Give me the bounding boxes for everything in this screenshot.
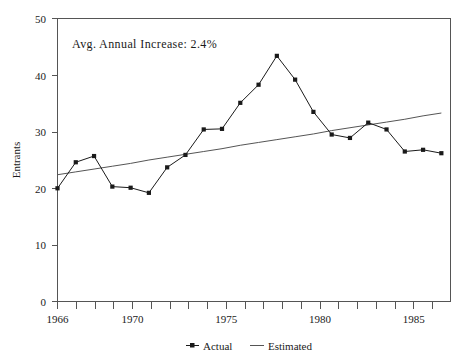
x-tick-label-1975: 1975: [215, 313, 238, 325]
data-point: [330, 132, 334, 136]
data-point: [92, 154, 96, 158]
legend-swatch-actual-marker: [190, 343, 195, 348]
data-point: [348, 136, 352, 140]
y-tick-label-20: 20: [35, 183, 47, 195]
y-axis-title: Entrants: [10, 142, 22, 179]
data-point: [403, 149, 407, 153]
legend-label-actual: Actual: [203, 340, 232, 352]
chart-background: [0, 0, 474, 363]
data-point: [220, 127, 224, 131]
line-chart: 0 10 20 30 40 50 Entrants: [0, 0, 474, 363]
y-tick-label-40: 40: [35, 70, 47, 82]
x-tick-label-1966: 1966: [47, 313, 70, 325]
data-point: [147, 191, 151, 195]
data-point: [110, 185, 114, 189]
x-tick-label-1985: 1985: [403, 313, 426, 325]
x-tick-label-1970: 1970: [122, 313, 145, 325]
data-point: [256, 83, 260, 87]
x-axis-ticks: [58, 302, 433, 309]
data-point: [439, 151, 443, 155]
y-tick-label-30: 30: [35, 126, 47, 138]
annotation-avg-annual-increase: Avg. Annual Increase: 2.4%: [72, 37, 217, 51]
y-tick-label-0: 0: [41, 296, 47, 308]
data-point: [293, 78, 297, 82]
data-point: [311, 110, 315, 114]
data-point: [183, 153, 187, 157]
data-point: [421, 148, 425, 152]
data-point: [55, 186, 59, 190]
chart-container: 0 10 20 30 40 50 Entrants: [0, 0, 474, 363]
legend-label-estimated: Estimated: [268, 340, 312, 352]
data-point: [384, 127, 388, 131]
data-point: [165, 165, 169, 169]
x-tick-label-1980: 1980: [309, 313, 332, 325]
y-tick-label-50: 50: [35, 13, 47, 25]
y-tick-label-10: 10: [35, 239, 47, 251]
data-point: [238, 101, 242, 105]
data-point: [202, 127, 206, 131]
data-point: [74, 160, 78, 164]
data-point: [129, 186, 133, 190]
data-point: [275, 54, 279, 58]
data-point: [366, 121, 370, 125]
